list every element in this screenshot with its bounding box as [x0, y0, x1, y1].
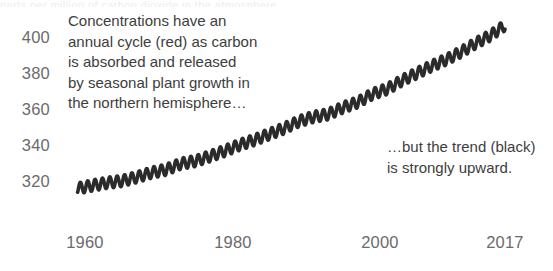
annotation-annual-cycle-line-3: is absorbed and released: [68, 52, 257, 73]
annotation-annual-cycle-line-1: Concentrations have an: [68, 11, 257, 32]
co2-concentration-chart: parts per million of carbon dioxide in t…: [0, 0, 553, 271]
annotation-trend-line-1: …but the trend (black): [387, 137, 535, 158]
annotation-annual-cycle: Concentrations have an annual cycle (red…: [68, 11, 257, 114]
annotation-annual-cycle-line-4: by seasonal plant growth in: [68, 73, 257, 94]
annotation-annual-cycle-line-2: annual cycle (red) as carbon: [68, 32, 257, 53]
annotation-annual-cycle-line-5: the northern hemisphere…: [68, 93, 257, 114]
annotation-trend-line-2: is strongly upward.: [387, 158, 535, 179]
plot-area: 400 380 360 340 320 1960 1980 2000 2017 …: [0, 0, 553, 271]
annotation-trend: …but the trend (black) is strongly upwar…: [387, 137, 535, 178]
